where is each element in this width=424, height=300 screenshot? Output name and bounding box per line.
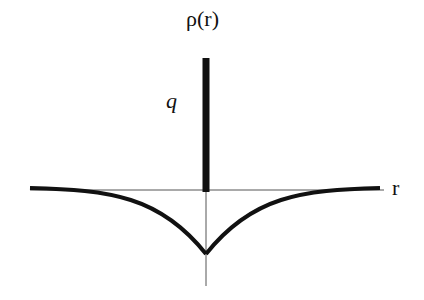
y-axis-label: ρ(r) xyxy=(186,6,219,32)
x-axis-label: r xyxy=(392,175,399,201)
charge-density-diagram: ρ(r) q r xyxy=(0,0,424,300)
spike-label: q xyxy=(166,88,177,114)
diagram-canvas xyxy=(0,0,424,300)
density-curve-right xyxy=(206,188,380,254)
density-curve-left xyxy=(30,188,206,254)
